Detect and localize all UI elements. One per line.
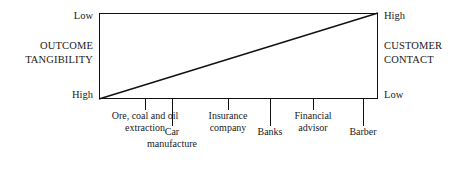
category-label-line: Financial — [258, 110, 368, 122]
diagonal-trend-line — [99, 13, 378, 99]
category-tick — [313, 99, 314, 110]
tangibility-contact-diagram: Low OUTCOME TANGIBILITY High High CUSTOM… — [0, 0, 468, 170]
category-label: Barber — [308, 126, 418, 138]
customer-contact-bottom-label: Low — [384, 89, 462, 100]
customer-contact-axis-title-line-1: CUSTOMER — [384, 39, 466, 53]
customer-contact-axis-title-line-2: CONTACT — [384, 53, 466, 67]
customer-contact-top-label: High — [384, 10, 462, 21]
category-tick — [228, 99, 229, 110]
outcome-tangibility-top-label: Low — [34, 10, 93, 21]
category-tick — [363, 99, 364, 126]
outcome-tangibility-axis-title: OUTCOME TANGIBILITY — [8, 39, 93, 66]
customer-contact-axis-title: CUSTOMER CONTACT — [384, 39, 466, 66]
category-label-line: Barber — [308, 126, 418, 138]
outcome-tangibility-axis-title-line-1: OUTCOME — [8, 39, 93, 53]
outcome-tangibility-axis-title-line-2: TANGIBILITY — [8, 53, 93, 67]
category-label-line: manufacture — [117, 138, 227, 150]
outcome-tangibility-bottom-label: High — [34, 89, 93, 100]
category-tick — [145, 99, 146, 110]
